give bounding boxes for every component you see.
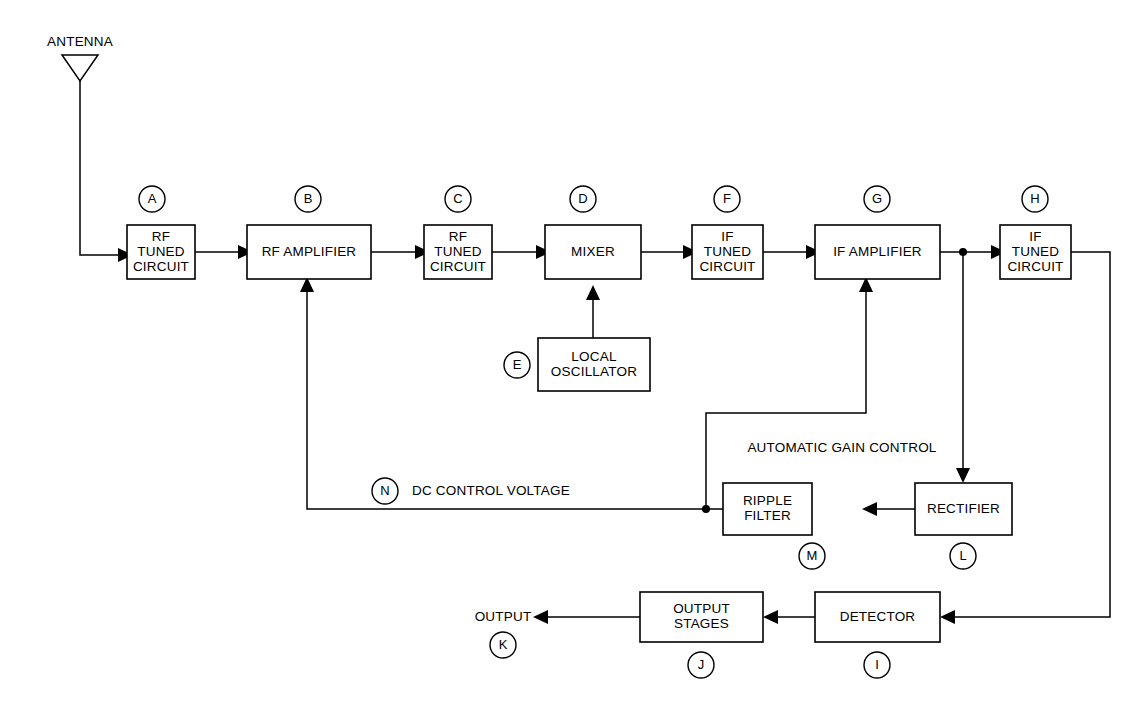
block-rf-tuned-circuit[interactable]: RFTUNEDCIRCUIT: [127, 225, 195, 279]
arrow-i-to-j-icon: [763, 610, 778, 624]
block-label-line: CIRCUIT: [1007, 259, 1063, 274]
block-label-line: STAGES: [674, 616, 729, 631]
reference-letter: K: [499, 637, 508, 652]
block-local-oscillator[interactable]: LOCALOSCILLATOR: [538, 338, 650, 391]
block-output-stages[interactable]: OUTPUTSTAGES: [640, 592, 763, 642]
antenna-label: ANTENNA: [47, 34, 113, 49]
reference-letter: B: [304, 191, 313, 206]
reference-letter: C: [453, 191, 462, 206]
block-rectifier[interactable]: RECTIFIER: [915, 483, 1012, 535]
reference-letter: N: [380, 483, 389, 498]
block-label-line: RF AMPLIFIER: [262, 244, 357, 259]
block-label-line: FILTER: [744, 508, 791, 523]
block-label-line: TUNED: [1012, 244, 1060, 259]
arrow-h-to-detector-icon: [940, 610, 955, 624]
reference-letter: G: [872, 191, 882, 206]
block-label-line: RECTIFIER: [927, 501, 1000, 516]
block-label-line: TUNED: [137, 244, 185, 259]
block-if-amplifier[interactable]: IF AMPLIFIER: [815, 225, 940, 279]
arrow-e-to-d-icon: [586, 285, 600, 300]
reference-marker-e[interactable]: E: [504, 352, 530, 378]
reference-marker-j[interactable]: J: [688, 652, 714, 678]
output-label: OUTPUT: [475, 609, 532, 624]
reference-letter: D: [578, 191, 587, 206]
dc-control-voltage-label: DC CONTROL VOLTAGE: [412, 483, 570, 498]
reference-letter: L: [959, 548, 966, 563]
block-ripple-filter[interactable]: RIPPLEFILTER: [723, 483, 812, 535]
block-label-line: RF: [152, 229, 170, 244]
block-label-line: CIRCUIT: [430, 259, 486, 274]
block-label-line: OSCILLATOR: [551, 364, 637, 379]
block-label-line: MIXER: [571, 244, 615, 259]
wire-m-to-rf-amplifier-agc: [307, 292, 723, 509]
reference-marker-m[interactable]: M: [799, 543, 825, 569]
block-mixer[interactable]: MIXER: [545, 225, 641, 279]
antenna-symbol: [62, 55, 133, 262]
reference-marker-d[interactable]: D: [570, 186, 596, 212]
arrow-l-to-m-icon: [862, 502, 877, 516]
antenna-triangle-icon: [62, 55, 98, 81]
reference-marker-a[interactable]: A: [139, 186, 165, 212]
arrow-j-to-output-icon: [533, 610, 548, 624]
block-label-line: IF: [721, 229, 733, 244]
reference-marker-i[interactable]: I: [864, 652, 890, 678]
reference-marker-f[interactable]: F: [714, 186, 740, 212]
blocks-layer: RFTUNEDCIRCUITRF AMPLIFIERRFTUNEDCIRCUIT…: [127, 225, 1071, 642]
agc-label: AUTOMATIC GAIN CONTROL: [747, 440, 936, 455]
block-rf-amplifier[interactable]: RF AMPLIFIER: [247, 225, 371, 279]
reference-letter: M: [807, 548, 818, 563]
reference-letter: J: [698, 657, 705, 672]
block-label-line: RIPPLE: [743, 493, 792, 508]
block-rf-tuned-circuit[interactable]: RFTUNEDCIRCUIT: [424, 225, 492, 279]
reference-letter: I: [875, 657, 879, 672]
reference-marker-b[interactable]: B: [295, 186, 321, 212]
reference-letter: A: [148, 191, 157, 206]
block-if-tuned-circuit[interactable]: IFTUNEDCIRCUIT: [692, 225, 763, 279]
block-label-line: TUNED: [704, 244, 752, 259]
audio-output-wires: [533, 252, 1110, 624]
block-label-line: IF: [1029, 229, 1041, 244]
arrow-tap-to-rectifier-icon: [956, 468, 970, 483]
reference-letter: E: [513, 357, 522, 372]
reference-marker-k[interactable]: K: [490, 632, 516, 658]
block-label-line: RF: [449, 229, 467, 244]
block-label-line: CIRCUIT: [699, 259, 755, 274]
reference-letter: H: [1030, 191, 1039, 206]
block-label-line: OUTPUT: [673, 601, 730, 616]
reference-marker-l[interactable]: L: [950, 543, 976, 569]
antenna-feed-wire: [80, 81, 118, 255]
reference-marker-g[interactable]: G: [864, 186, 890, 212]
block-diagram-svg: RFTUNEDCIRCUITRF AMPLIFIERRFTUNEDCIRCUIT…: [0, 0, 1146, 712]
wire-h-to-detector: [955, 252, 1110, 617]
reference-marker-h[interactable]: H: [1022, 186, 1048, 212]
block-label-line: CIRCUIT: [133, 259, 189, 274]
block-if-tuned-circuit[interactable]: IFTUNEDCIRCUIT: [1000, 225, 1071, 279]
reference-marker-c[interactable]: C: [445, 186, 471, 212]
block-label-line: LOCAL: [571, 349, 617, 364]
reference-letter: F: [723, 191, 731, 206]
wire-m-to-if-amplifier-agc: [706, 292, 866, 509]
block-label-line: TUNED: [434, 244, 482, 259]
reference-marker-n[interactable]: N: [372, 478, 398, 504]
block-label-line: IF AMPLIFIER: [833, 244, 922, 259]
block-label-line: DETECTOR: [840, 609, 916, 624]
block-detector[interactable]: DETECTOR: [815, 592, 940, 642]
block-diagram-canvas: RFTUNEDCIRCUITRF AMPLIFIERRFTUNEDCIRCUIT…: [0, 0, 1146, 712]
